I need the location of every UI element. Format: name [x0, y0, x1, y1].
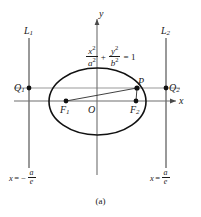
- label-x-axis: x: [179, 96, 183, 106]
- equation-y-den-exp: 2: [115, 56, 118, 63]
- directrix-left-denominator: e: [28, 178, 36, 186]
- directrix-right-fraction: a e: [162, 169, 170, 187]
- y-axis-arrowhead: [95, 19, 100, 25]
- label-Q2: Q2: [169, 83, 180, 94]
- ellipse-equation: x2 a2 + y2 b2 = 1: [86, 45, 136, 69]
- directrix-equation-left: x = − a e: [9, 169, 36, 187]
- label-Q2-sub: 2: [176, 86, 180, 94]
- directrix-left-lhs: x: [9, 173, 13, 183]
- figure-caption: (a): [0, 196, 201, 206]
- directrix-right-operator: =: [155, 173, 160, 183]
- label-F1: F1: [60, 105, 70, 116]
- directrix-right-denominator: e: [162, 178, 170, 186]
- equation-equals-one: = 1: [123, 52, 137, 62]
- label-Q1: Q1: [14, 83, 25, 94]
- directrix-left-fraction: a e: [28, 169, 36, 187]
- label-Q1-sub: 1: [21, 86, 25, 94]
- point-F1: [64, 99, 69, 104]
- label-F2-sub: 2: [136, 108, 140, 116]
- equation-term-x: x2 a2: [86, 45, 98, 69]
- point-Q2: [164, 86, 169, 91]
- label-P: P: [138, 77, 144, 87]
- label-L1-sub: 1: [30, 29, 34, 37]
- label-F2: F2: [130, 105, 140, 116]
- point-F2: [134, 99, 139, 104]
- directrix-equation-right: x = a e: [150, 169, 170, 187]
- equation-x-num-exp: 2: [92, 44, 95, 51]
- focal-radius-F1-P: [66, 88, 137, 101]
- equation-x-denominator: a2: [86, 57, 98, 68]
- label-F1-sub: 1: [66, 108, 70, 116]
- label-L1: L1: [24, 26, 33, 37]
- point-Q1: [27, 86, 32, 91]
- label-origin: O: [88, 105, 95, 115]
- label-L2: L2: [161, 26, 170, 37]
- x-axis-arrowhead: [170, 99, 176, 104]
- directrix-left-operator: = −: [14, 173, 26, 183]
- equation-y-num-exp: 2: [115, 44, 118, 51]
- equation-term-y: y2 b2: [109, 45, 121, 69]
- label-y-axis: y: [99, 9, 103, 19]
- directrix-right-lhs: x: [150, 173, 154, 183]
- label-L2-sub: 2: [167, 29, 171, 37]
- equation-x-den-exp: 2: [93, 56, 96, 63]
- equation-y-denominator: b2: [109, 57, 121, 68]
- equation-plus-operator: +: [100, 52, 107, 62]
- ellipse-directrix-figure: L1 L2 Q1 Q2 P F1 F2 O x y x2 a2 + y2 b2 …: [0, 0, 201, 217]
